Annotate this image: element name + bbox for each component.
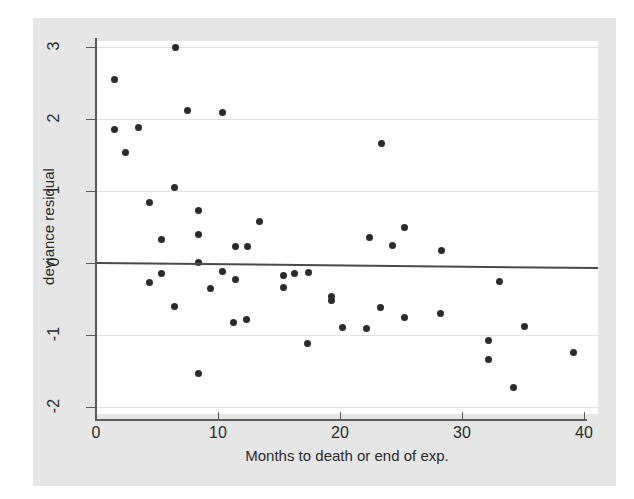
zero-reference-line [96, 41, 598, 414]
y-tick-label-3: 3 [45, 32, 63, 60]
y-tick-2 [86, 119, 96, 120]
reference-line-segment [96, 263, 598, 268]
plot-area [96, 41, 598, 414]
x-tick-40 [584, 412, 585, 421]
figure-panel: 3210-1-2 010203040 deviance residual Mon… [33, 18, 616, 486]
y-tick-1 [86, 191, 96, 192]
x-tick-0 [96, 412, 97, 421]
scatter-plot-figure: 3210-1-2 010203040 deviance residual Mon… [0, 0, 634, 499]
x-tick-label-20: 20 [320, 424, 360, 442]
y-axis-label: deviance residual [40, 126, 57, 326]
x-tick-label-30: 30 [442, 424, 482, 442]
y-tick--1 [86, 335, 96, 336]
x-tick-30 [462, 412, 463, 421]
x-tick-label-0: 0 [76, 424, 116, 442]
x-axis-label: Months to death or end of exp. [96, 447, 598, 464]
y-tick-3 [86, 47, 96, 48]
y-tick--2 [86, 407, 96, 408]
x-axis-line [95, 419, 587, 421]
y-tick-label--2: -2 [45, 392, 63, 420]
y-axis-line [95, 38, 97, 420]
x-tick-10 [218, 412, 219, 421]
y-tick-0 [86, 263, 96, 264]
x-tick-label-40: 40 [564, 424, 604, 442]
x-tick-label-10: 10 [198, 424, 238, 442]
x-tick-20 [340, 412, 341, 421]
